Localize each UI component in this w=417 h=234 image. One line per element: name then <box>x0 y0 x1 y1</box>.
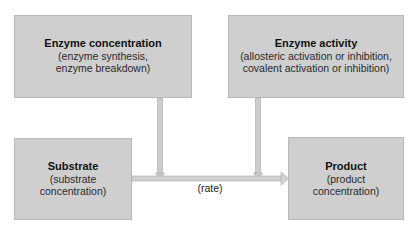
enzyme-activity-detail-2: covalent activation or inhibition) <box>243 62 390 75</box>
enzyme-concentration-detail-1: (enzyme synthesis, <box>58 50 148 63</box>
product-detail-1: (product <box>327 173 366 186</box>
enzyme-concentration-arrow <box>156 98 165 179</box>
product-detail-2: concentration) <box>313 185 380 198</box>
substrate-title: Substrate <box>48 160 99 173</box>
product-title: Product <box>325 160 367 173</box>
substrate-detail-2: concentration) <box>40 185 107 198</box>
enzyme-activity-box: Enzyme activity (allosteric activation o… <box>228 15 404 98</box>
product-box: Product (product concentration) <box>288 137 404 220</box>
enzyme-concentration-box: Enzyme concentration (enzyme synthesis, … <box>14 15 192 98</box>
substrate-box: Substrate (substrate concentration) <box>14 138 132 220</box>
enzyme-activity-arrow <box>254 98 263 179</box>
enzyme-activity-detail-1: (allosteric activation or inhibition, <box>240 50 392 63</box>
enzyme-concentration-title: Enzyme concentration <box>44 37 161 50</box>
enzyme-activity-title: Enzyme activity <box>275 37 358 50</box>
enzyme-concentration-detail-2: enzyme breakdown) <box>56 62 151 75</box>
substrate-detail-1: (substrate <box>50 173 97 186</box>
rate-label: (rate) <box>190 182 230 194</box>
